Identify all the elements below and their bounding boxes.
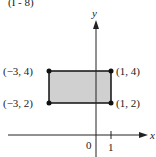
shaded-rectangle: [49, 71, 111, 103]
vertex-point: [47, 69, 52, 74]
vertex-label: (1, 2): [116, 97, 140, 110]
vertex-label: (−3, 2): [3, 97, 33, 110]
y-axis-arrow-icon: [93, 20, 99, 29]
x-tick-label: 1: [108, 141, 114, 153]
vertex-label: (−3, 4): [3, 65, 33, 78]
vertex-point: [47, 101, 52, 106]
y-axis-label: y: [91, 7, 97, 19]
vertex-point: [109, 101, 114, 106]
vertex-point: [109, 69, 114, 74]
origin-label: 0: [86, 139, 92, 151]
vertex-label: (1, 4): [116, 65, 140, 78]
x-axis-arrow-icon: [139, 132, 148, 138]
coordinate-plane: (I - 8) x y 1 0 (−3, 4) (1, 4) (−3, 2) (…: [0, 0, 156, 157]
x-axis-label: x: [149, 129, 155, 141]
header-fragment: (I - 8): [8, 0, 34, 9]
